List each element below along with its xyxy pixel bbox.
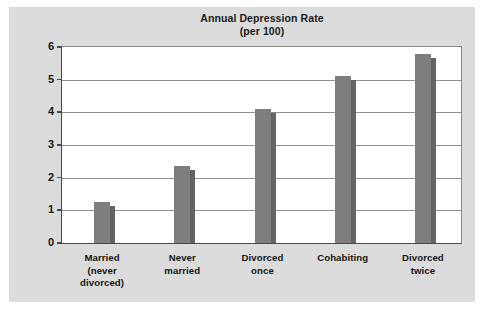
x-axis-label-line: divorced)	[47, 277, 157, 290]
bar-shadow-cap	[110, 202, 115, 206]
bar-shadow-cap	[351, 76, 356, 80]
x-axis-label-line: once	[208, 265, 318, 278]
x-axis-label-line: twice	[368, 265, 478, 278]
bar-fill	[415, 54, 431, 244]
bar-shadow	[431, 58, 436, 244]
y-axis-tick-label: 2	[14, 172, 54, 183]
bar	[255, 109, 271, 243]
bar	[94, 202, 110, 243]
chart-figure: Annual Depression Rate (per 100) 6543210…	[0, 0, 493, 313]
chart-subtitle: (per 100)	[60, 25, 464, 38]
x-axis-category-label: Divorcedtwice	[368, 252, 478, 277]
chart-title-block: Annual Depression Rate (per 100)	[60, 12, 464, 38]
bar-shadow-cap	[190, 166, 195, 170]
bar-shadow-cap	[271, 109, 276, 113]
y-axis-tick-label: 5	[14, 74, 54, 85]
y-axis-tick-label: 3	[14, 139, 54, 150]
bar-fill	[255, 109, 271, 243]
bar-shadow	[110, 206, 115, 243]
bar-shadow-cap	[431, 54, 436, 58]
y-axis-tick-label: 6	[14, 41, 54, 52]
bar-fill	[335, 76, 351, 243]
bar-shadow	[271, 113, 276, 243]
bar-shadow	[351, 80, 356, 243]
bar	[415, 54, 431, 244]
y-axis-tick-label: 0	[14, 237, 54, 248]
gridline	[62, 80, 461, 81]
bar	[335, 76, 351, 243]
x-axis-label-line: Divorced	[368, 252, 478, 265]
plot-area	[61, 46, 462, 244]
y-axis-tick-label: 4	[14, 106, 54, 117]
bar-fill	[174, 166, 190, 243]
bar	[174, 166, 190, 243]
y-axis-tick-label: 1	[14, 204, 54, 215]
bar-shadow	[190, 170, 195, 243]
chart-title: Annual Depression Rate	[60, 12, 464, 25]
bar-fill	[94, 202, 110, 243]
